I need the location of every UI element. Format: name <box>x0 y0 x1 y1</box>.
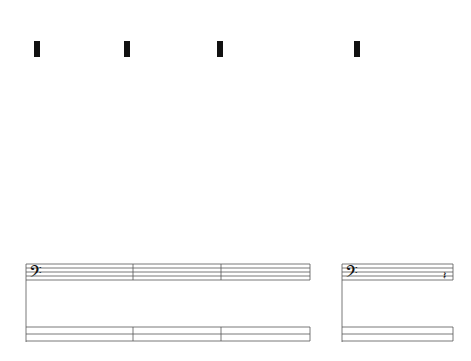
bass-clef-icon: 𝄢 <box>29 263 42 285</box>
bass-clef-icon: 𝄢 <box>345 263 358 285</box>
notation-and-tab: 𝄢 𝄢 𝄽 <box>0 0 471 361</box>
staff-lines-right <box>342 264 453 342</box>
quarter-rest-icon: 𝄽 <box>443 269 446 281</box>
staff-lines-left <box>26 264 310 342</box>
